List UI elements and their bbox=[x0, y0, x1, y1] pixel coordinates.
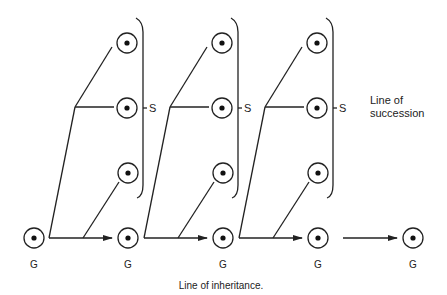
inheritance-diagram: S S S Line of succession G G G G G Line … bbox=[0, 0, 447, 295]
succession-marker-2: S bbox=[244, 102, 251, 114]
generation-label-5: G bbox=[409, 259, 417, 270]
diagram-caption: Line of inheritance. bbox=[179, 280, 264, 291]
succession-label-line2: succession bbox=[370, 107, 424, 119]
succession-marker-1: S bbox=[149, 102, 156, 114]
generation-label-1: G bbox=[30, 259, 38, 270]
succession-marker-3: S bbox=[339, 102, 346, 114]
generation-label-4: G bbox=[314, 259, 322, 270]
generation-label-3: G bbox=[219, 259, 227, 270]
generation-label-2: G bbox=[124, 259, 132, 270]
succession-label-line1: Line of bbox=[370, 94, 404, 106]
